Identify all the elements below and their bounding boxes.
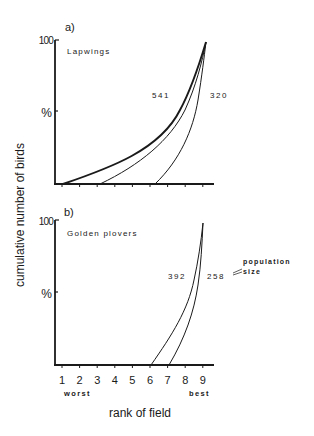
panel-a: a) Lapwings 100 % 541 320 <box>39 21 228 187</box>
panel-a-title: Lapwings <box>67 47 110 56</box>
panel-b-y-mid-label: % <box>41 287 52 301</box>
panel-b-title: Golden plovers <box>67 229 138 238</box>
svg-text:9: 9 <box>200 374 206 386</box>
panel-b: b) Golden plovers 100 % 392 258 populati… <box>39 206 291 368</box>
population-annotation-line1: population <box>243 258 291 266</box>
svg-text:2: 2 <box>77 374 83 386</box>
population-annotation-line2: size <box>243 268 261 275</box>
svg-text:7: 7 <box>165 374 171 386</box>
svg-text:8: 8 <box>182 374 188 386</box>
svg-text:6: 6 <box>147 374 153 386</box>
x-tick-labels: 1 2 3 4 5 6 7 8 9 <box>59 374 206 386</box>
panel-a-y-mid-label: % <box>41 106 52 120</box>
panel-a-label-320: 320 <box>210 91 228 100</box>
svg-text:3: 3 <box>94 374 100 386</box>
panel-a-letter: a) <box>65 21 75 33</box>
x-axis-label: rank of field <box>109 406 171 420</box>
svg-text:5: 5 <box>129 374 135 386</box>
svg-text:1: 1 <box>59 374 65 386</box>
panel-b-curve-258 <box>169 223 203 365</box>
panel-b-y-top-label: 100 <box>39 216 55 227</box>
x-low-label: worst <box>63 389 91 398</box>
panel-a-curve-541 <box>100 42 206 184</box>
panel-a-y-top-label: 100 <box>39 35 55 46</box>
y-axis-label: cumulative number of birds <box>13 143 27 287</box>
panel-b-label-258: 258 <box>207 272 225 281</box>
pointer-arrow-icon <box>233 269 242 275</box>
panel-b-label-392: 392 <box>168 272 186 281</box>
panel-a-label-541: 541 <box>152 91 170 100</box>
x-high-label: best <box>189 389 210 398</box>
panel-b-letter: b) <box>64 206 74 218</box>
svg-text:4: 4 <box>112 374 118 386</box>
panel-b-curve-392 <box>151 223 203 365</box>
panel-a-curve-thick <box>63 42 206 184</box>
chart-figure: cumulative number of birds a) Lapwings 1… <box>0 0 314 436</box>
